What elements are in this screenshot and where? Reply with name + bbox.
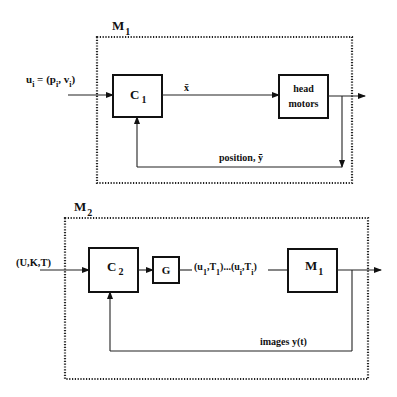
input-label-ui: ui = (pi, vi) xyxy=(26,73,75,89)
module-m2-label: M2 xyxy=(74,199,92,218)
module-m1: M1 ui = (pi, vi) C1 x̄ head motors posit… xyxy=(26,18,365,183)
sequence-label: (u1,T1)...(ui,Ti) xyxy=(194,261,257,277)
block-diagram: M1 ui = (pi, vi) C1 x̄ head motors posit… xyxy=(0,0,397,397)
feedback-images-label: images y(t) xyxy=(260,336,307,348)
head-motors-label-2: motors xyxy=(289,98,319,109)
generator-g-label: G xyxy=(162,264,171,276)
module-m2: M2 (U,K,T) C2 G (u1,T1)...(ui,Ti) M1 ima… xyxy=(16,199,381,379)
feedback-position-label: position, ȳ xyxy=(219,152,263,163)
module-m1-label: M1 xyxy=(112,18,130,37)
head-motors-label-1: head xyxy=(293,83,314,94)
input-label-ukt: (U,K,T) xyxy=(16,257,52,269)
head-motors-box xyxy=(279,75,328,118)
signal-x-label: x̄ xyxy=(184,82,189,93)
